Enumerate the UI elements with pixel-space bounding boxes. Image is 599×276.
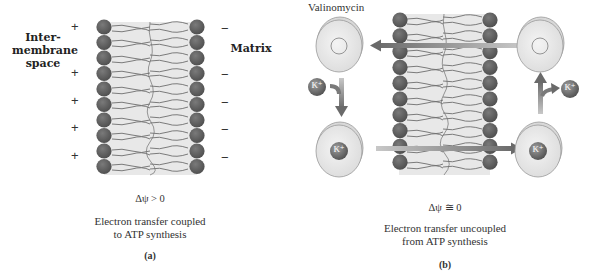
caption-a: Electron transfer coupled to ATP synthes…	[70, 215, 230, 241]
caption-b: Electron transfer uncoupled from ATP syn…	[365, 222, 525, 248]
k-ion-label-bound-right: K⁺	[530, 144, 546, 154]
matrix-label: Matrix	[226, 42, 276, 55]
k-ion-label-free-right: K⁺	[562, 82, 578, 92]
minus-sign: −	[221, 21, 229, 36]
minus-sign: −	[221, 122, 229, 137]
intermembrane-space-label: Inter- membrane space	[12, 31, 74, 70]
arrow-k-binding-down	[330, 78, 348, 117]
k-ion-label-free-left: K⁺	[309, 80, 325, 90]
plus-sign: +	[71, 120, 79, 135]
plus-sign: +	[71, 65, 79, 80]
minus-sign: −	[221, 67, 229, 82]
caption-b-line-1: Electron transfer uncoupled	[365, 222, 525, 235]
caption-b-line-2: from ATP synthesis	[365, 235, 525, 248]
valinomycin-carrier-top-left	[316, 17, 363, 72]
intermembrane-line-1: Inter-	[12, 31, 74, 44]
valinomycin-label: Valinomycin	[308, 1, 388, 14]
plus-sign: +	[71, 93, 79, 108]
caption-a-line-1: Electron transfer coupled	[70, 215, 230, 228]
caption-a-line-2: to ATP synthesis	[70, 228, 230, 241]
plus-sign: +	[71, 148, 79, 163]
membrane-potential-b: Δψ ≅ 0	[395, 201, 495, 213]
k-ion-label-bound-left: K⁺	[331, 144, 347, 154]
minus-sign: −	[221, 95, 229, 110]
panel-label-b: (b)	[425, 259, 465, 270]
membrane-bilayer-a	[96, 19, 204, 175]
panel-label-a: (a)	[130, 250, 170, 261]
minus-sign: −	[221, 150, 229, 165]
intermembrane-line-2: membrane	[12, 44, 74, 57]
valinomycin-carrier-top-right	[517, 17, 564, 72]
arrow-k-release-up	[534, 72, 560, 114]
plus-sign: +	[71, 19, 79, 34]
intermembrane-line-3: space	[12, 57, 74, 70]
membrane-potential-a: Δψ > 0	[100, 193, 200, 204]
